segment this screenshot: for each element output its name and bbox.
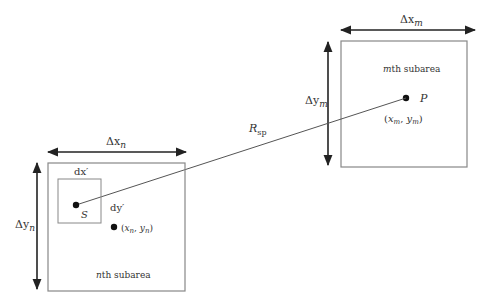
n-height-label: Δyn [15, 218, 35, 233]
m-subarea-label: mth subarea [383, 64, 441, 74]
m-subarea: Δxm Δym mth subarea P (xm, ym) [305, 13, 475, 167]
element-box [58, 179, 101, 223]
subarea-diagram: Δxm Δym mth subarea P (xm, ym) Rsp Δxn Δ… [0, 0, 493, 306]
m-width-label: Δxm [400, 13, 423, 28]
distance-label-rsp: Rsp [248, 122, 267, 137]
source-s-label: S [81, 209, 88, 220]
point-p-coords: (xm, ym) [384, 113, 423, 126]
point-p-label: P [419, 92, 428, 105]
n-subarea: Δxn Δyn nth subarea dx′ dy′ S (xn, yn) [15, 135, 186, 291]
n-subarea-label: nth subarea [96, 270, 151, 280]
m-height-label: Δym [305, 94, 328, 109]
n-center-coords: (xn, yn) [121, 223, 153, 235]
element-dy-label: dy′ [110, 202, 125, 213]
n-center-dot [111, 224, 117, 230]
source-s-dot [73, 202, 79, 208]
m-subarea-box [341, 41, 467, 167]
n-width-label: Δxn [106, 135, 126, 150]
element-dx-label: dx′ [74, 166, 89, 177]
